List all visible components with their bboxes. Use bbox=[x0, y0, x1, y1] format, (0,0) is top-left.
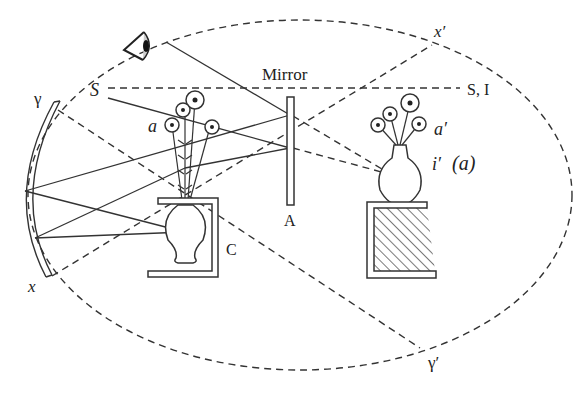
image-stand bbox=[367, 202, 436, 278]
label-a-prime: a′ bbox=[434, 119, 448, 139]
label-a: a bbox=[148, 116, 157, 136]
label-s-i: S, I bbox=[467, 81, 489, 98]
real-flowers-a bbox=[165, 91, 219, 200]
label-mirror: Mirror bbox=[262, 65, 308, 84]
label-A: A bbox=[284, 212, 296, 229]
line-gamma-gammaprime bbox=[58, 110, 420, 348]
plane-mirror-a bbox=[287, 97, 294, 205]
vase-in-box bbox=[166, 205, 206, 263]
optics-diagram: Mirror S, I S γ γ′ x x′ a a′ i′ (a) A C bbox=[0, 0, 573, 400]
image-vase-i-prime bbox=[371, 94, 426, 205]
label-gamma: γ bbox=[33, 89, 42, 108]
label-gamma-prime: γ′ bbox=[427, 353, 439, 372]
label-i-prime: i′ bbox=[432, 154, 442, 174]
box-c bbox=[148, 198, 218, 277]
label-x-prime: x′ bbox=[433, 22, 446, 41]
label-x: x bbox=[27, 277, 36, 296]
label-i-prime-paren: (a) bbox=[452, 152, 476, 175]
label-C: C bbox=[226, 241, 237, 258]
label-s: S bbox=[90, 80, 99, 100]
eye-icon bbox=[124, 32, 149, 60]
